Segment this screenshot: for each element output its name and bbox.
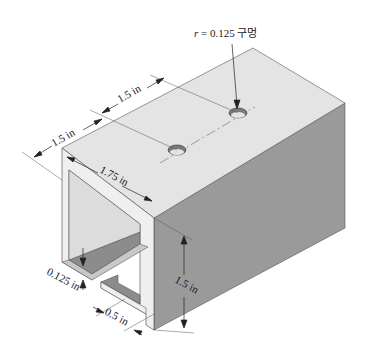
ext-line	[154, 330, 194, 333]
dim-spacing-2-label: 1.5 in	[115, 82, 143, 105]
dim-lip-label: 0.5 in	[103, 305, 131, 328]
channel-diagram: 1.5 in 1.5 in r = 0.125 구멍 1.75 in 1.5 i…	[0, 0, 368, 358]
hole-callout: r = 0.125 구멍	[194, 27, 258, 39]
ext-line	[22, 152, 62, 180]
